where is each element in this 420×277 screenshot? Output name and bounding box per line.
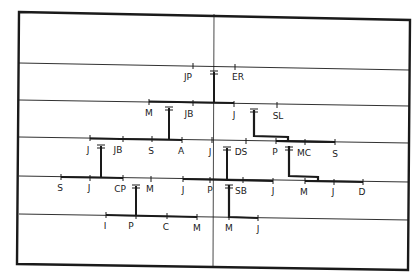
person-label: J [181,185,185,195]
person-label: SL [273,111,284,121]
sibling-bars [61,102,363,219]
person-label: P [272,147,278,157]
person-label: P [207,185,213,195]
person-label: I [104,221,107,231]
person-label: S [332,149,338,159]
person-label: D [359,187,366,197]
person-label: J [256,224,260,234]
family-tree-diagram: JP ER M JB J SL J JB S A J DS P MC S S J… [0,0,420,277]
center-vertical-line [213,14,214,267]
person-label: M [193,223,201,233]
person-label: M [300,187,308,197]
person-label: ER [232,72,244,82]
person-label: J [86,145,90,155]
person-label: M [145,108,153,118]
person-label: DS [235,147,248,157]
person-label: MC [297,148,311,158]
person-label: S [57,183,63,193]
person-label: J [208,147,212,157]
person-label: J [331,187,335,197]
person-label: JP [183,72,193,82]
person-label: SB [235,186,247,196]
person-label: A [178,146,185,156]
person-label: J [271,186,275,196]
person-label: J [232,110,236,120]
person-label: CP [114,184,126,194]
person-label: C [163,222,169,232]
person-label: M [146,184,154,194]
person-labels: JP ER M JB J SL J JB S A J DS P MC S S J… [57,72,365,234]
person-label: JB [113,145,123,155]
marriage-markers [97,71,293,188]
person-label: J [87,183,91,193]
person-label: S [148,146,154,156]
person-label: JB [184,109,194,119]
person-label: M [225,223,233,233]
person-label: P [128,221,134,231]
